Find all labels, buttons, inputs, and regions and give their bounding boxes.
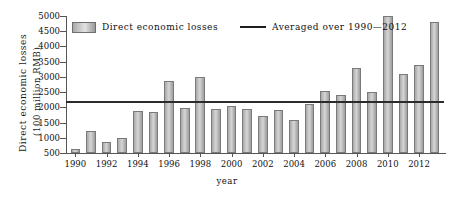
x-tick-mark	[294, 153, 295, 157]
legend-bar-label: Direct economic losses	[102, 22, 218, 32]
bar-2007	[336, 95, 346, 153]
chart-figure: Direct economic losses (100 million RMB)…	[0, 0, 454, 209]
x-tick-mark	[357, 153, 358, 157]
x-tick-mark	[138, 153, 139, 157]
bar-2002	[258, 116, 268, 153]
x-tick-mark	[325, 153, 326, 157]
x-tick-mark	[388, 153, 389, 157]
bar-1995	[149, 112, 159, 153]
bar-2010	[383, 16, 393, 153]
x-axis-line	[66, 153, 446, 154]
bar-1994	[133, 111, 143, 153]
x-tick-label: 1990	[65, 159, 87, 169]
bar-1992	[102, 142, 112, 153]
y-axis-title-line1: Direct economic losses	[18, 34, 28, 152]
y-tick-label: 2000	[28, 102, 60, 112]
x-tick-mark	[75, 153, 76, 157]
bar-2004	[289, 120, 299, 153]
bar-2005	[305, 104, 315, 153]
bar-1993	[117, 138, 127, 153]
x-tick-label: 1996	[158, 159, 180, 169]
bar-2008	[352, 68, 362, 153]
bar-2000	[227, 106, 237, 153]
x-axis-title: year	[0, 176, 454, 186]
plot-area	[66, 16, 444, 153]
y-tick-label: 4000	[28, 41, 60, 51]
x-tick-label: 1994	[127, 159, 149, 169]
bar-2003	[274, 110, 284, 153]
bar-2011	[399, 74, 409, 153]
x-tick-mark	[107, 153, 108, 157]
bar-2013	[430, 22, 440, 153]
y-tick-label: 2500	[28, 87, 60, 97]
y-tick-label: 5000	[28, 11, 60, 21]
x-tick-label: 2000	[221, 159, 243, 169]
y-tick-label: 500	[28, 148, 60, 158]
bar-1996	[164, 81, 174, 153]
x-tick-label: 2010	[377, 159, 399, 169]
y-tick-label: 1500	[28, 118, 60, 128]
y-tick-label: 1000	[28, 133, 60, 143]
x-tick-mark	[169, 153, 170, 157]
bar-1997	[180, 108, 190, 153]
x-tick-label: 2008	[346, 159, 368, 169]
x-tick-mark	[263, 153, 264, 157]
legend-line-swatch	[240, 26, 266, 28]
chart-legend: Direct economic losses Averaged over 199…	[72, 20, 407, 34]
bar-2001	[242, 109, 252, 153]
y-tick-label: 3500	[28, 57, 60, 67]
average-line	[66, 101, 444, 103]
legend-bar-swatch	[72, 22, 96, 33]
x-tick-mark	[200, 153, 201, 157]
y-tick-label: 3000	[28, 72, 60, 82]
bar-2012	[414, 65, 424, 153]
x-tick-label: 2006	[314, 159, 336, 169]
bar-1999	[211, 109, 221, 153]
bar-1991	[86, 131, 96, 153]
x-tick-label: 1998	[190, 159, 212, 169]
x-tick-label: 2002	[252, 159, 274, 169]
y-tick-label: 4500	[28, 26, 60, 36]
x-tick-mark	[419, 153, 420, 157]
x-tick-mark	[232, 153, 233, 157]
x-tick-label: 1992	[96, 159, 118, 169]
legend-line-label: Averaged over 1990—2012	[272, 22, 407, 32]
x-tick-label: 2004	[283, 159, 305, 169]
bar-1998	[195, 77, 205, 153]
x-tick-label: 2012	[408, 159, 430, 169]
